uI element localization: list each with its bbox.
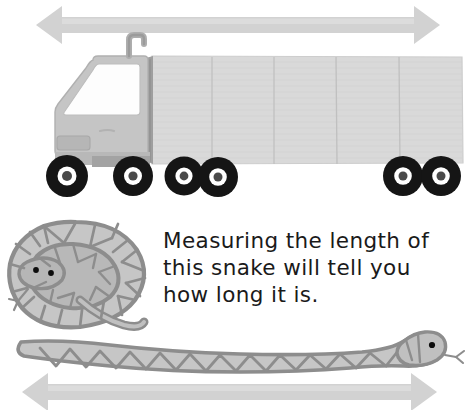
caption-text: Measuring the length of this snake will … <box>163 227 463 308</box>
snake-tongue <box>445 351 464 363</box>
snake-eye <box>429 342 435 348</box>
illustration-page: Measuring the length of this snake will … <box>0 0 469 410</box>
stretched-snake <box>0 0 469 410</box>
